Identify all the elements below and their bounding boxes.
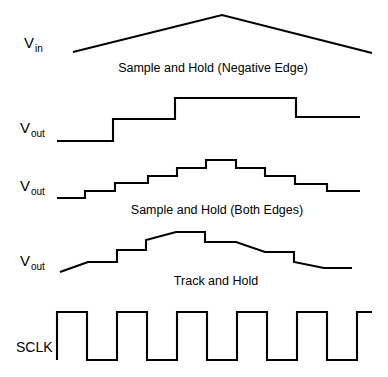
signal-label-vout-negative-edge: V out [20,119,45,139]
vin-label-main: V [24,34,34,51]
signal-label-vout-track-hold: V out [20,252,45,272]
vout3-label-subscript: out [31,261,45,272]
vin-label-subscript: in [35,43,43,54]
waveform-vout-both-edges [57,160,360,198]
vout1-label-main: V [20,119,30,136]
vout2-label-main: V [20,177,30,194]
waveform-vout-track-hold [60,232,352,272]
signal-label-vout-both-edges: V out [20,177,45,197]
vout2-label-subscript: out [31,186,45,197]
waveform-canvas: V in Sample and Hold (Negative Edge) V o… [0,0,388,377]
timing-diagram: V in Sample and Hold (Negative Edge) V o… [0,0,388,377]
vout3-label-main: V [20,252,30,269]
vout1-label-subscript: out [31,128,45,139]
signal-label-vin: V in [24,34,43,54]
waveform-vout-negative-edge [57,98,360,141]
waveform-vin-triangle [73,15,372,53]
caption-track-hold: Track and Hold [174,274,258,288]
sclk-label: SCLK [16,339,53,355]
waveform-sclk-clock [57,312,372,360]
caption-negative-edge: Sample and Hold (Negative Edge) [118,61,308,75]
caption-both-edges: Sample and Hold (Both Edges) [131,203,303,217]
